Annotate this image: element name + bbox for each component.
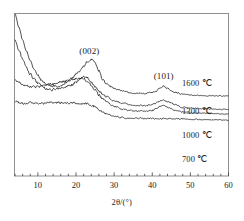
xtick-label-60: 60 [224, 181, 233, 190]
series-label-1600c: 1600 ℃ [182, 79, 212, 88]
x-axis-ticks [15, 172, 229, 176]
xtick-label-10: 10 [34, 181, 43, 190]
curve-1300c [15, 40, 229, 110]
plot-frame [15, 14, 229, 177]
xtick-label-20: 20 [72, 181, 81, 190]
series-label-1300c: 1300 ℃ [182, 107, 212, 116]
peak-label-002: (002) [79, 47, 99, 56]
series-curves [15, 14, 229, 121]
series-label-700c: 700 ℃ [182, 155, 207, 164]
peak-label-101: (101) [154, 72, 174, 81]
xtick-label-50: 50 [186, 181, 195, 190]
x-axis-title: 2θ/(°) [112, 198, 132, 207]
xtick-label-40: 40 [148, 181, 157, 190]
xtick-label-30: 30 [110, 181, 119, 190]
xrd-figure: (002) (101) 1600 ℃ 1300 ℃ 1000 ℃ 700 ℃ 1… [0, 0, 244, 221]
series-label-1000c: 1000 ℃ [182, 131, 212, 140]
